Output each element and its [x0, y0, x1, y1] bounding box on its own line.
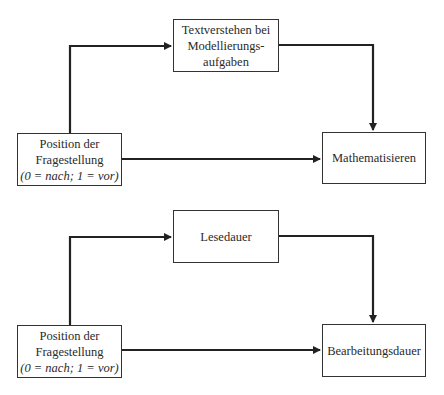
arrow-mediator-to-outcome — [279, 45, 373, 130]
mediator-label: Lesedauer — [200, 229, 251, 245]
source-label-line1: Position der — [39, 136, 99, 152]
bottom-mediator-box: Lesedauer — [173, 210, 279, 263]
top-mediator-box: Textverstehen bei Modellierungs- aufgabe… — [173, 19, 279, 72]
mediator-label-line1: Textverstehen bei — [182, 22, 270, 38]
bottom-source-box: Position der Fragestellung (0 = nach; 1 … — [17, 325, 122, 378]
outcome-label: Bearbeitungsdauer — [327, 343, 421, 359]
arrow-source-to-mediator — [70, 46, 171, 133]
source-coding-note: (0 = nach; 1 = vor) — [20, 168, 118, 184]
mediator-label-line3: aufgaben — [203, 54, 249, 70]
top-source-box: Position der Fragestellung (0 = nach; 1 … — [17, 133, 122, 186]
source-coding-note: (0 = nach; 1 = vor) — [20, 360, 118, 376]
top-outcome-box: Mathematisieren — [322, 132, 426, 184]
source-label-line2: Fragestellung — [35, 344, 103, 360]
outcome-label: Mathematisieren — [332, 150, 416, 166]
source-label-line2: Fragestellung — [35, 152, 103, 168]
arrow-source-to-mediator — [70, 237, 171, 325]
arrow-mediator-to-outcome — [279, 236, 373, 322]
source-label-line1: Position der — [39, 328, 99, 344]
mediator-label-line2: Modellierungs- — [187, 38, 264, 54]
bottom-outcome-box: Bearbeitungsdauer — [322, 324, 426, 377]
